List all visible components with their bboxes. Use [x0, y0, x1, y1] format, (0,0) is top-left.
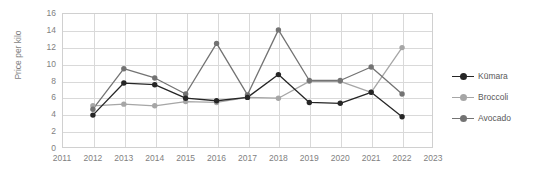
legend-key-icon [452, 114, 474, 124]
data-point-marker [152, 75, 157, 80]
y-axis-tick-label: 0 [30, 144, 56, 153]
y-axis-tick-label: 16 [30, 9, 56, 18]
data-point-marker [276, 72, 281, 77]
data-point-marker [276, 96, 281, 101]
data-point-marker [338, 101, 343, 106]
data-point-marker [90, 106, 95, 111]
y-axis-tick-label: 6 [30, 93, 56, 102]
data-point-marker [368, 90, 373, 95]
legend-item-label: Kūmara [478, 72, 508, 81]
legend-item-label: Broccoli [478, 93, 508, 102]
data-point-marker [121, 80, 126, 85]
data-point-marker [152, 82, 157, 87]
legend-item[interactable]: Kūmara [452, 66, 538, 87]
data-point-marker [214, 41, 219, 46]
data-point-marker [399, 114, 404, 119]
chart-legend: KūmaraBroccoliAvocado [452, 66, 538, 129]
y-axis-tick-label: 8 [30, 76, 56, 85]
y-axis-tick-label: 4 [30, 110, 56, 119]
data-point-marker [399, 91, 404, 96]
data-point-marker [307, 78, 312, 83]
legend-item[interactable]: Broccoli [452, 87, 538, 108]
line-chart: Price per kilo 0246810121416 20112012201… [0, 0, 540, 191]
y-axis-tick-label: 14 [30, 26, 56, 35]
data-point-marker [368, 64, 373, 69]
legend-key-icon [452, 72, 474, 82]
data-point-marker [214, 98, 219, 103]
legend-key-icon [452, 93, 474, 103]
data-point-marker [245, 95, 250, 100]
data-point-marker [152, 103, 157, 108]
data-point-marker [183, 96, 188, 101]
data-series-layer [62, 13, 433, 148]
legend-item[interactable]: Avocado [452, 108, 538, 129]
y-axis-tick-label: 2 [30, 127, 56, 136]
data-point-marker [338, 78, 343, 83]
x-axis-tick-label: 2023 [413, 154, 453, 163]
data-point-marker [276, 27, 281, 32]
data-point-marker [307, 100, 312, 105]
legend-item-label: Avocado [478, 114, 511, 123]
data-point-marker [90, 112, 95, 117]
y-axis-tick-label: 10 [30, 59, 56, 68]
y-axis-tick-label: 12 [30, 43, 56, 52]
data-point-marker [121, 101, 126, 106]
data-point-marker [399, 45, 404, 50]
data-point-marker [121, 66, 126, 71]
